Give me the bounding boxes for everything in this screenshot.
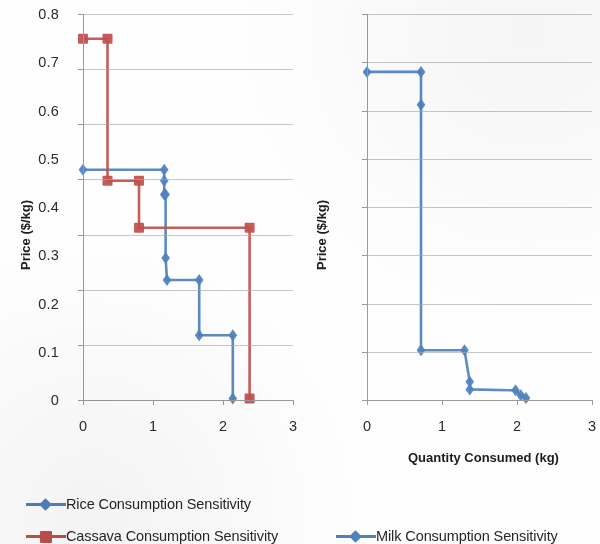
series-line-0: [83, 170, 233, 399]
left-chart-y-axis-title: Price ($/kg): [18, 200, 33, 270]
legend-key-milk: [336, 529, 376, 543]
y-tick-label: 0.8: [38, 6, 59, 22]
x-tick-label: 1: [438, 418, 446, 434]
data-point: [103, 176, 113, 186]
legend-label-rice: Rice Consumption Sensitivity: [66, 496, 251, 512]
gridline: [367, 352, 592, 353]
data-point: [228, 393, 237, 405]
data-point: [460, 344, 469, 356]
gridline: [367, 62, 592, 63]
gridline: [83, 345, 293, 346]
gridline: [83, 69, 293, 70]
x-tick-label: 2: [219, 418, 227, 434]
gridline: [83, 290, 293, 291]
y-axis-line: [83, 14, 84, 400]
data-point: [245, 223, 255, 233]
data-point: [160, 164, 169, 176]
x-axis-line: [367, 400, 592, 401]
x-tick-label: 0: [79, 418, 87, 434]
series-line-0: [367, 72, 526, 398]
x-tick-label: 3: [588, 418, 596, 434]
data-point: [417, 66, 426, 78]
legend-item-cassava[interactable]: Cassava Consumption Sensitivity: [26, 528, 278, 544]
data-point: [195, 329, 204, 341]
left-chart-series-layer: [83, 14, 293, 400]
gridline: [83, 124, 293, 125]
legend-key-rice: [26, 497, 66, 511]
y-tick-label: 0.1: [38, 344, 59, 360]
gridline: [367, 255, 592, 256]
x-tick-label: 1: [149, 418, 157, 434]
data-point: [417, 344, 426, 356]
right-chart-x-axis-title: Quantity Consumed (kg): [408, 450, 559, 465]
y-tick-label: 0.2: [38, 296, 59, 312]
gridline: [367, 159, 592, 160]
y-tick-label: 0: [51, 392, 59, 408]
data-point: [195, 274, 204, 286]
data-point: [245, 394, 255, 404]
gridline: [367, 111, 592, 112]
x-tick: [592, 400, 593, 405]
data-point: [103, 34, 113, 44]
y-axis-line: [367, 14, 368, 400]
right-chart-y-axis-title: Price ($/kg): [314, 200, 329, 270]
data-point: [134, 176, 144, 186]
data-point: [161, 252, 170, 264]
gridline: [83, 179, 293, 180]
legend-item-milk[interactable]: Milk Consumption Sensitivity: [336, 528, 558, 544]
legend-label-milk: Milk Consumption Sensitivity: [376, 528, 558, 544]
x-tick-label: 2: [513, 418, 521, 434]
data-point: [228, 329, 237, 341]
left-chart-plot-area: [83, 14, 293, 400]
gridline: [367, 304, 592, 305]
gridline: [367, 14, 592, 15]
legend-key-cassava: [26, 529, 66, 543]
chart-rice-cassava: Price ($/kg) 00.020.040.060.080.10.120.1…: [0, 0, 300, 470]
legend-item-rice[interactable]: Rice Consumption Sensitivity: [26, 496, 251, 512]
y-tick-label: 0.7: [38, 54, 59, 70]
data-point: [161, 189, 170, 201]
y-tick-label: 0.3: [38, 247, 59, 263]
x-tick-label: 3: [289, 418, 297, 434]
y-tick-label: 0.6: [38, 103, 59, 119]
data-point: [465, 383, 474, 395]
data-point: [134, 223, 144, 233]
chart-milk: Price ($/kg) 00.10.20.30.40.50.60.70.8 0…: [300, 0, 600, 470]
x-tick: [293, 400, 294, 405]
gridline: [367, 207, 592, 208]
gridline: [83, 14, 293, 15]
data-point: [163, 274, 172, 286]
data-point: [417, 99, 426, 111]
right-chart-plot-area: [367, 14, 592, 400]
x-axis-line: [83, 400, 293, 401]
y-tick-label: 0.4: [38, 199, 59, 215]
legend-label-cassava: Cassava Consumption Sensitivity: [66, 528, 278, 544]
x-tick-label: 0: [363, 418, 371, 434]
y-tick-label: 0.5: [38, 151, 59, 167]
data-point: [160, 175, 169, 187]
figure-canvas: Price ($/kg) 00.020.040.060.080.10.120.1…: [0, 0, 600, 544]
gridline: [83, 235, 293, 236]
